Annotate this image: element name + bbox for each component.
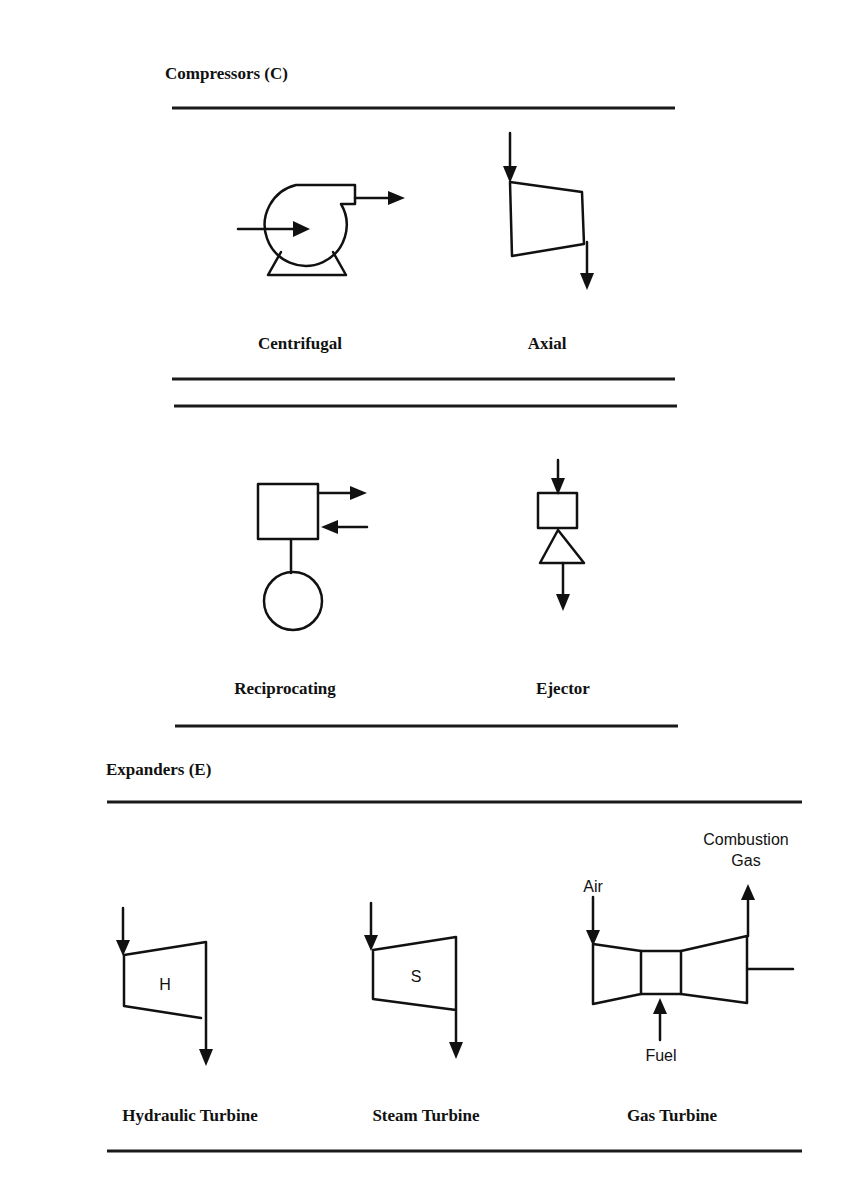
fuel-label: Fuel bbox=[645, 1047, 676, 1064]
centrifugal-label: Centrifugal bbox=[258, 334, 342, 353]
combustion-gas-label-line2: Gas bbox=[731, 852, 760, 869]
steam-turbine-label: Steam Turbine bbox=[372, 1106, 480, 1125]
steam-turbine-symbol: S bbox=[411, 968, 422, 985]
gas-turbine-icon: Air Combustion Gas Fuel bbox=[583, 831, 793, 1064]
hydraulic-turbine-symbol: H bbox=[159, 976, 171, 993]
axial-label: Axial bbox=[528, 334, 567, 353]
combustion-gas-label-line1: Combustion bbox=[703, 831, 788, 848]
air-label: Air bbox=[583, 878, 603, 895]
ejector-label: Ejector bbox=[536, 679, 590, 698]
reciprocating-compressor-icon bbox=[258, 484, 367, 630]
compressors-title: Compressors (C) bbox=[165, 64, 288, 83]
axial-compressor-icon bbox=[503, 133, 594, 290]
gas-turbine-label: Gas Turbine bbox=[627, 1106, 718, 1125]
hydraulic-turbine-label: Hydraulic Turbine bbox=[122, 1106, 258, 1125]
centrifugal-compressor-icon bbox=[238, 185, 405, 275]
reciprocating-label: Reciprocating bbox=[234, 679, 336, 698]
ejector-icon bbox=[538, 460, 584, 611]
expanders-title: Expanders (E) bbox=[106, 760, 211, 779]
equipment-symbols-diagram: Compressors (C) Centrifugal Axial Recipr… bbox=[0, 0, 846, 1196]
